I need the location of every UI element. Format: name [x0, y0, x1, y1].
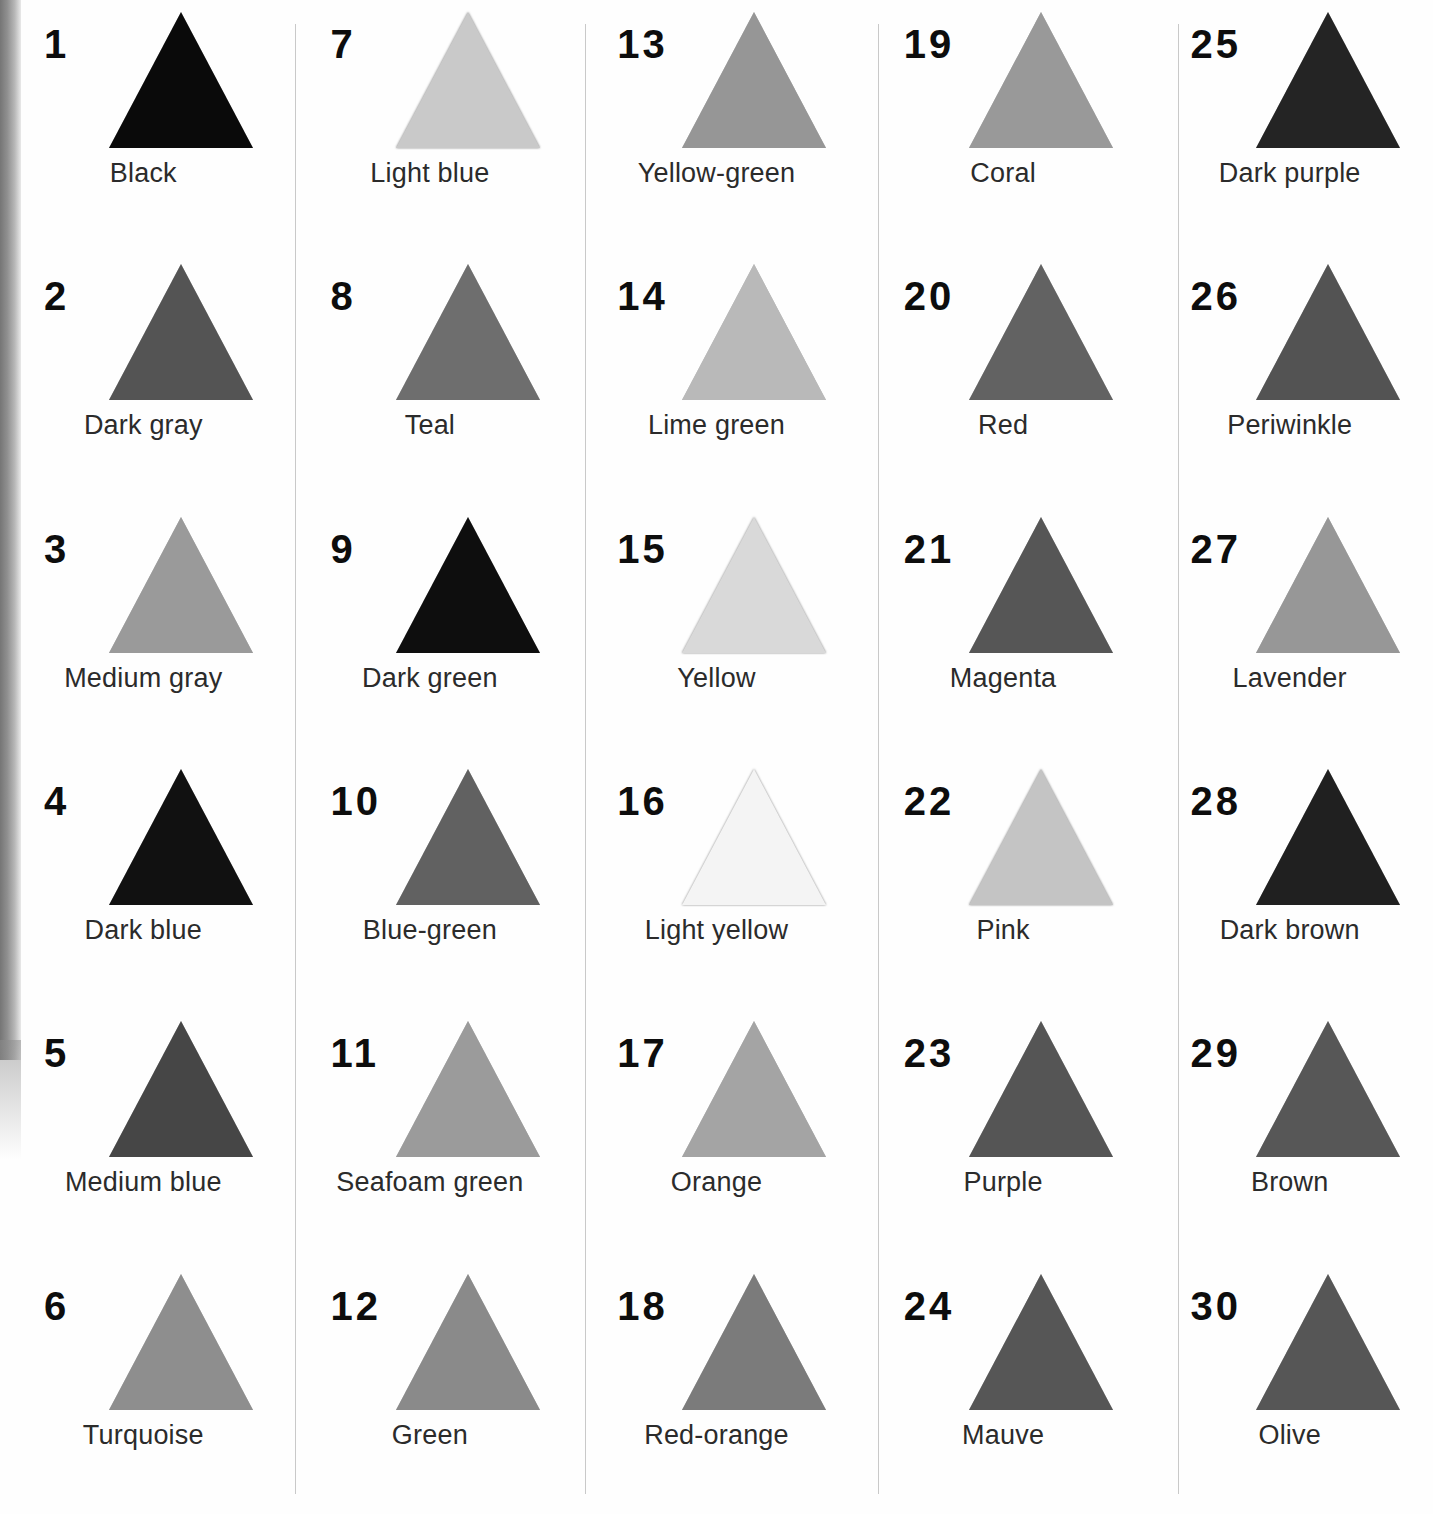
triangle-swatch[interactable]: [1256, 12, 1416, 150]
swatch-number: 10: [331, 781, 382, 821]
triangle-swatch[interactable]: [109, 264, 269, 402]
swatch-cell[interactable]: 8Teal: [287, 252, 574, 504]
swatch-label: Dark purple: [1146, 158, 1433, 189]
swatch-number: 26: [1190, 276, 1241, 316]
swatch-cell[interactable]: 4Dark blue: [0, 757, 287, 1009]
swatch-cell[interactable]: 3Medium gray: [0, 505, 287, 757]
swatch-cell[interactable]: 17Orange: [573, 1009, 860, 1261]
swatch-cell[interactable]: 19Coral: [860, 0, 1147, 252]
triangle-swatch[interactable]: [396, 12, 556, 150]
swatch-cell[interactable]: 10Blue-green: [287, 757, 574, 1009]
swatch-label: Orange: [573, 1167, 860, 1198]
triangle-swatch[interactable]: [969, 12, 1129, 150]
swatch-number: 8: [331, 276, 356, 316]
triangle-icon: [109, 769, 253, 905]
swatch-cell[interactable]: 30Olive: [1146, 1262, 1433, 1514]
triangle-swatch[interactable]: [682, 769, 842, 907]
swatch-label: Light blue: [287, 158, 574, 189]
swatch-cell[interactable]: 2Dark gray: [0, 252, 287, 504]
triangle-icon: [109, 264, 253, 400]
swatch-cell[interactable]: 18Red-orange: [573, 1262, 860, 1514]
triangle-swatch[interactable]: [1256, 769, 1416, 907]
triangle-icon: [109, 1274, 253, 1410]
swatch-cell[interactable]: 15Yellow: [573, 505, 860, 757]
swatch-number: 1: [44, 24, 69, 64]
triangle-icon: [969, 12, 1113, 148]
triangle-swatch[interactable]: [396, 264, 556, 402]
triangle-icon: [1256, 1274, 1400, 1410]
swatch-cell[interactable]: 27Lavender: [1146, 505, 1433, 757]
triangle-swatch[interactable]: [109, 1021, 269, 1159]
swatch-number: 7: [331, 24, 356, 64]
triangle-swatch[interactable]: [969, 769, 1129, 907]
swatch-cell[interactable]: 12Green: [287, 1262, 574, 1514]
swatch-cell[interactable]: 28Dark brown: [1146, 757, 1433, 1009]
triangle-swatch[interactable]: [682, 264, 842, 402]
triangle-swatch[interactable]: [969, 517, 1129, 655]
swatch-cell[interactable]: 29Brown: [1146, 1009, 1433, 1261]
triangle-swatch[interactable]: [1256, 264, 1416, 402]
swatch-cell[interactable]: 7Light blue: [287, 0, 574, 252]
triangle-swatch[interactable]: [969, 1274, 1129, 1412]
swatch-cell[interactable]: 16Light yellow: [573, 757, 860, 1009]
swatch-cell[interactable]: 20Red: [860, 252, 1147, 504]
triangle-icon: [109, 1021, 253, 1157]
swatch-cell[interactable]: 23Purple: [860, 1009, 1147, 1261]
swatch-number: 19: [904, 24, 955, 64]
triangle-icon: [682, 769, 826, 905]
triangle-icon: [969, 517, 1113, 653]
swatch-cell[interactable]: 14Lime green: [573, 252, 860, 504]
swatch-cell[interactable]: 13Yellow-green: [573, 0, 860, 252]
swatch-label: Black: [0, 158, 287, 189]
triangle-swatch[interactable]: [109, 769, 269, 907]
swatch-number: 16: [617, 781, 668, 821]
triangle-icon: [396, 12, 540, 148]
triangle-swatch[interactable]: [969, 264, 1129, 402]
swatch-cell[interactable]: 5Medium blue: [0, 1009, 287, 1261]
triangle-swatch[interactable]: [396, 517, 556, 655]
triangle-swatch[interactable]: [109, 517, 269, 655]
swatch-number: 17: [617, 1033, 668, 1073]
triangle-icon: [1256, 12, 1400, 148]
swatch-cell[interactable]: 9Dark green: [287, 505, 574, 757]
swatch-cell[interactable]: 11Seafoam green: [287, 1009, 574, 1261]
triangle-icon: [396, 1274, 540, 1410]
triangle-swatch[interactable]: [682, 1274, 842, 1412]
triangle-swatch[interactable]: [1256, 1021, 1416, 1159]
swatch-label: Lime green: [573, 410, 860, 441]
swatch-number: 4: [44, 781, 69, 821]
triangle-icon: [109, 517, 253, 653]
triangle-swatch[interactable]: [1256, 1274, 1416, 1412]
swatch-cell[interactable]: 24Mauve: [860, 1262, 1147, 1514]
swatch-cell[interactable]: 26Periwinkle: [1146, 252, 1433, 504]
swatch-label: Medium blue: [0, 1167, 287, 1198]
swatch-label: Periwinkle: [1146, 410, 1433, 441]
triangle-icon: [1256, 517, 1400, 653]
triangle-icon: [396, 517, 540, 653]
swatch-number: 18: [617, 1286, 668, 1326]
triangle-icon: [1256, 264, 1400, 400]
triangle-swatch[interactable]: [969, 1021, 1129, 1159]
triangle-swatch[interactable]: [109, 1274, 269, 1412]
triangle-swatch[interactable]: [396, 1274, 556, 1412]
swatch-cell[interactable]: 6Turquoise: [0, 1262, 287, 1514]
swatch-cell[interactable]: 22Pink: [860, 757, 1147, 1009]
swatch-cell[interactable]: 21Magenta: [860, 505, 1147, 757]
triangle-swatch[interactable]: [396, 769, 556, 907]
triangle-swatch[interactable]: [396, 1021, 556, 1159]
triangle-swatch[interactable]: [1256, 517, 1416, 655]
swatch-chart-sheet: 1Black7Light blue13Yellow-green19Coral25…: [0, 0, 1433, 1514]
triangle-swatch[interactable]: [682, 1021, 842, 1159]
swatch-number: 15: [617, 529, 668, 569]
triangle-swatch[interactable]: [109, 12, 269, 150]
swatch-label: Dark blue: [0, 915, 287, 946]
swatch-number: 12: [331, 1286, 382, 1326]
swatch-number: 3: [44, 529, 69, 569]
swatch-label: Pink: [860, 915, 1147, 946]
triangle-icon: [396, 1021, 540, 1157]
swatch-cell[interactable]: 25Dark purple: [1146, 0, 1433, 252]
swatch-label: Teal: [287, 410, 574, 441]
triangle-swatch[interactable]: [682, 517, 842, 655]
triangle-swatch[interactable]: [682, 12, 842, 150]
swatch-cell[interactable]: 1Black: [0, 0, 287, 252]
